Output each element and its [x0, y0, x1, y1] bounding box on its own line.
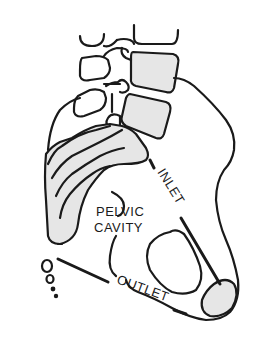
- inlet-label: INLET: [154, 166, 188, 207]
- pelvic-cavity-label-line1: PELVIC: [96, 204, 144, 219]
- pelvis-drawing: INLET PELVIC CAVITY OUTLET: [0, 0, 258, 352]
- pelvic-cavity-label-line2: CAVITY: [94, 220, 143, 235]
- pelvis-diagram: INLET PELVIC CAVITY OUTLET: [0, 0, 258, 352]
- upper-vertebrae: [80, 25, 178, 46]
- coccyx: [42, 260, 58, 298]
